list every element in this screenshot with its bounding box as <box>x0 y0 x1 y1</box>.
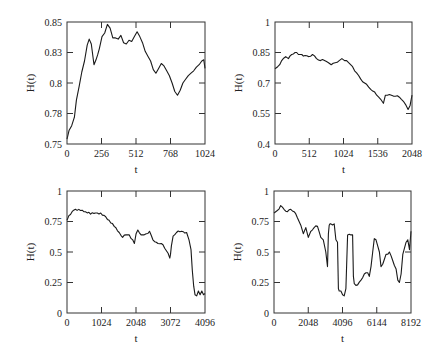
y-tick-label: 1 <box>264 186 269 197</box>
x-tick-label: 2048 <box>298 317 318 328</box>
x-tick-label: 2048 <box>126 317 146 328</box>
y-tick-label: 0.85 <box>45 17 63 28</box>
y-tick-label: 0 <box>264 308 269 319</box>
plot-frame <box>67 22 205 144</box>
y-tick-label: 0.55 <box>253 108 271 119</box>
y-tick-label: 0.25 <box>252 277 270 288</box>
x-tick-label: 0 <box>65 317 70 328</box>
x-tick-label: 6144 <box>367 317 387 328</box>
plot-frame <box>275 22 412 144</box>
panel-top-right: 05121024153620480.40.550.70.851tH(t) <box>232 17 422 176</box>
data-line <box>67 24 205 139</box>
x-tick-label: 1024 <box>195 148 215 159</box>
y-tick-label: 0.85 <box>253 47 271 58</box>
x-tick-label: 3072 <box>161 317 181 328</box>
y-tick-label: 0.25 <box>45 277 63 288</box>
x-tick-label: 0 <box>65 148 70 159</box>
x-tick-label: 2048 <box>402 148 422 159</box>
figure: 025651276810240.750.780.80.830.85tH(t) 0… <box>0 0 441 360</box>
y-axis-label: H(t) <box>231 243 244 262</box>
data-line <box>274 206 411 296</box>
y-tick-label: 0.4 <box>258 139 271 150</box>
y-tick-label: 0 <box>57 308 62 319</box>
y-tick-label: 0.83 <box>45 47 63 58</box>
x-axis-label: t <box>341 332 344 344</box>
panel-bottom-left: 0102420483072409600.250.50.751tH(t) <box>24 186 215 345</box>
x-tick-label: 512 <box>129 148 144 159</box>
x-tick-label: 8192 <box>401 317 421 328</box>
x-tick-label: 1024 <box>92 317 112 328</box>
x-tick-label: 1536 <box>368 148 388 159</box>
x-tick-label: 0 <box>272 317 277 328</box>
y-tick-label: 0.75 <box>45 216 63 227</box>
data-line <box>67 209 205 296</box>
y-tick-label: 0.75 <box>45 139 63 150</box>
x-tick-label: 512 <box>302 148 317 159</box>
x-axis-label: t <box>342 163 345 175</box>
panel-bottom-right: 0204840966144819200.250.50.751tH(t) <box>231 186 421 345</box>
x-tick-label: 768 <box>163 148 178 159</box>
y-axis-label: H(t) <box>24 243 37 262</box>
y-axis-label: H(t) <box>24 74 37 93</box>
x-tick-label: 4096 <box>195 317 215 328</box>
x-tick-label: 0 <box>273 148 278 159</box>
panel-top-left: 025651276810240.750.780.80.830.85tH(t) <box>24 17 215 176</box>
x-axis-label: t <box>134 332 137 344</box>
y-tick-label: 1 <box>57 186 62 197</box>
y-tick-label: 0.7 <box>258 78 271 89</box>
x-tick-label: 4096 <box>333 317 353 328</box>
y-axis-label: H(t) <box>232 74 245 93</box>
y-tick-label: 0.5 <box>257 247 270 258</box>
data-line <box>275 53 412 110</box>
y-tick-label: 0.8 <box>50 78 63 89</box>
x-tick-label: 1024 <box>334 148 354 159</box>
x-tick-label: 256 <box>94 148 109 159</box>
x-axis-label: t <box>134 163 137 175</box>
y-tick-label: 1 <box>265 17 270 28</box>
y-tick-label: 0.75 <box>252 216 270 227</box>
y-tick-label: 0.78 <box>45 108 63 119</box>
plot-frame <box>67 191 205 313</box>
y-tick-label: 0.5 <box>50 247 63 258</box>
